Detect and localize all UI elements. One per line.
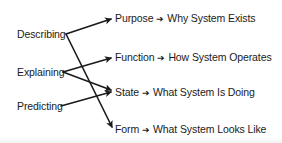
term-form: Form: [115, 123, 139, 135]
arrow-right-icon: ➔: [157, 53, 165, 63]
meaning-form: What System Looks Like: [153, 123, 266, 135]
source-predicting: Predicting: [17, 100, 63, 112]
arrow-right-icon: ➔: [156, 14, 164, 24]
bottom-shadow: [0, 137, 282, 143]
meaning-function: How System Operates: [168, 51, 271, 63]
arrow-right-icon: ➔: [142, 88, 150, 98]
term-purpose: Purpose: [115, 12, 153, 24]
edge-describing-purpose: [66, 19, 111, 34]
target-state: State➔What System Is Doing: [115, 86, 255, 99]
arrow-right-icon: ➔: [142, 125, 150, 135]
edge-predicting-state: [61, 92, 111, 106]
meaning-purpose: Why System Exists: [167, 12, 255, 24]
term-function: Function: [115, 51, 154, 63]
term-state: State: [115, 86, 139, 98]
source-describing: Describing: [17, 28, 66, 40]
edge-explaining-function: [63, 58, 111, 72]
target-purpose: Purpose➔Why System Exists: [115, 12, 255, 25]
meaning-state: What System Is Doing: [153, 86, 255, 98]
edge-describing-form: [66, 34, 112, 127]
target-form: Form➔What System Looks Like: [115, 123, 266, 136]
source-explaining: Explaining: [17, 66, 64, 78]
target-function: Function➔How System Operates: [115, 51, 272, 64]
